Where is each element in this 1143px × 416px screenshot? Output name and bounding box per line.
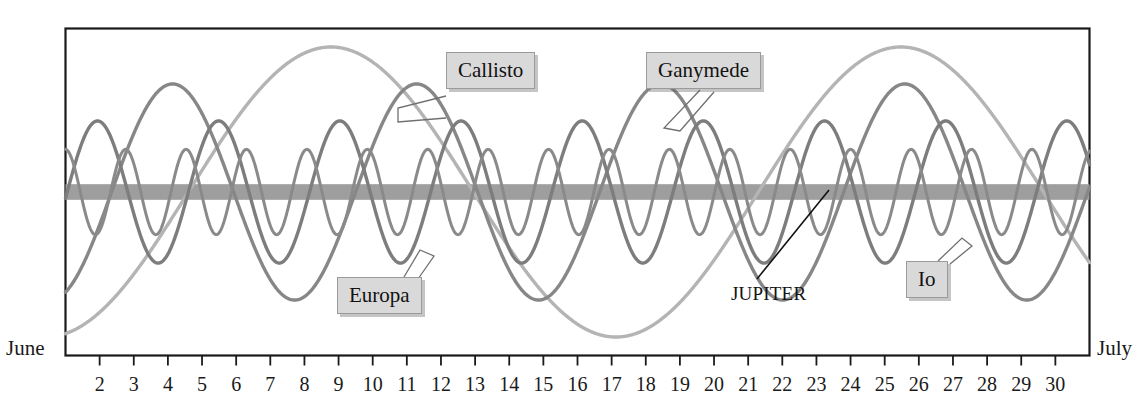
tick-label: 14 xyxy=(499,373,519,396)
tick-label: 5 xyxy=(197,373,207,396)
tick-label: 8 xyxy=(299,373,309,396)
tick-label: 15 xyxy=(533,373,553,396)
tick-label: 24 xyxy=(841,373,861,396)
tick-label: 23 xyxy=(806,373,826,396)
tick-label: 11 xyxy=(397,373,416,396)
tick-label: 18 xyxy=(636,373,656,396)
jupiter-band-rect xyxy=(66,184,1090,200)
tick-label: 21 xyxy=(738,373,758,396)
tick-label: 3 xyxy=(129,373,139,396)
tick-label: 26 xyxy=(909,373,929,396)
tick-label: 19 xyxy=(670,373,690,396)
tick-label: 25 xyxy=(875,373,895,396)
tick-label: 16 xyxy=(568,373,588,396)
tick-label: 30 xyxy=(1045,373,1065,396)
tick-label: 4 xyxy=(163,373,173,396)
callout-io: Io xyxy=(906,261,948,298)
tick-label: 7 xyxy=(265,373,275,396)
tick-label: 10 xyxy=(363,373,383,396)
tick-label: 28 xyxy=(977,373,997,396)
jupiter-band xyxy=(66,184,1090,200)
axis-ticks xyxy=(100,356,1056,366)
tick-label: 2 xyxy=(95,373,105,396)
axis-label-month-end: July xyxy=(1097,336,1132,361)
tick-label: 22 xyxy=(772,373,792,396)
tick-label: 27 xyxy=(943,373,963,396)
callout-europa: Europa xyxy=(337,277,422,314)
tick-label: 17 xyxy=(602,373,622,396)
callout-callisto: Callisto xyxy=(446,52,535,89)
jupiter-moons-figure: June July 234567891011121314151617181920… xyxy=(0,0,1143,416)
plot-canvas xyxy=(0,0,1143,416)
label-jupiter: JUPITER xyxy=(731,283,806,305)
callout-ganymede: Ganymede xyxy=(646,52,761,89)
tick-label: 9 xyxy=(334,373,344,396)
axis-label-month-start: June xyxy=(6,336,45,361)
tick-label: 12 xyxy=(431,373,451,396)
tick-label: 6 xyxy=(231,373,241,396)
tick-label: 13 xyxy=(465,373,485,396)
tick-label: 29 xyxy=(1011,373,1031,396)
tick-label: 20 xyxy=(704,373,724,396)
